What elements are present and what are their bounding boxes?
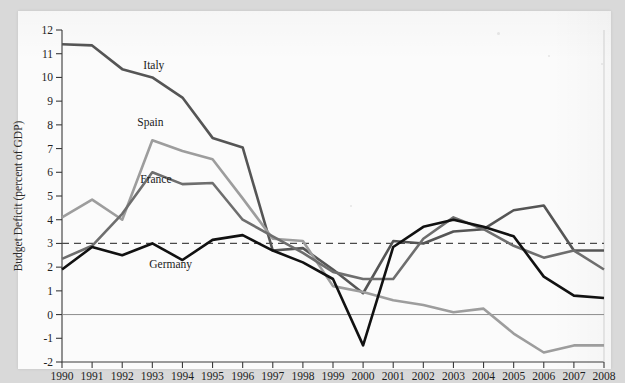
- x-tick-label: 1998: [291, 370, 314, 382]
- y-tick-label: 6: [47, 166, 53, 178]
- x-tick-label: 1990: [51, 370, 74, 382]
- y-tick-label: 4: [47, 214, 53, 226]
- series-label-spain: Spain: [137, 116, 163, 129]
- y-tick-label: 2: [47, 261, 53, 273]
- x-tick-label: 2003: [442, 370, 465, 382]
- y-tick-label: 10: [42, 71, 54, 83]
- scan-speck: [350, 205, 352, 207]
- x-tick-label: 2000: [352, 370, 375, 382]
- y-tick-label: 0: [47, 309, 53, 321]
- scan-speck: [601, 63, 603, 65]
- scanned-page: 1211109876543210-1-2Budget Deficit (perc…: [0, 0, 625, 383]
- x-tick-label: 1996: [231, 370, 254, 382]
- x-tick-label: 2002: [412, 370, 435, 382]
- y-tick-label: 9: [47, 95, 53, 107]
- series-line-germany: [62, 220, 604, 346]
- x-tick-label: 2004: [472, 370, 495, 382]
- scan-speck: [497, 32, 500, 35]
- chart-axes: [62, 30, 604, 362]
- y-axis-title: Budget Deficit (percent of GDP): [12, 120, 25, 271]
- chart-svg: 1211109876543210-1-2Budget Deficit (perc…: [0, 0, 625, 383]
- x-tick-label: 1994: [171, 370, 194, 382]
- x-tick-label: 2006: [532, 370, 555, 382]
- x-tick-label: 1993: [141, 370, 164, 382]
- x-tick-label: 2007: [562, 370, 585, 382]
- y-tick-label: 11: [42, 48, 53, 60]
- y-tick-label: 5: [47, 190, 53, 202]
- series-label-germany: Germany: [149, 258, 192, 271]
- x-tick-label: 2008: [593, 370, 616, 382]
- y-tick-label: 3: [47, 237, 53, 249]
- y-tick-label: -2: [43, 356, 53, 368]
- x-tick-label: 2005: [502, 370, 525, 382]
- y-tick-label: -1: [43, 332, 53, 344]
- y-tick-label: 12: [42, 24, 54, 36]
- series-label-italy: Italy: [143, 59, 164, 72]
- y-tick-label: 1: [47, 285, 53, 297]
- x-tick-label: 1997: [261, 370, 284, 382]
- y-tick-label: 7: [47, 143, 53, 155]
- x-tick-label: 1991: [81, 370, 104, 382]
- series-label-france: France: [140, 173, 171, 185]
- scan-speck: [548, 55, 550, 57]
- x-tick-label: 1992: [111, 370, 134, 382]
- x-tick-label: 1995: [201, 370, 224, 382]
- y-tick-label: 8: [47, 119, 53, 131]
- series-line-italy: [62, 44, 604, 293]
- budget-deficit-line-chart: 1211109876543210-1-2Budget Deficit (perc…: [0, 0, 625, 383]
- series-line-france: [62, 172, 604, 279]
- x-tick-label: 1999: [322, 370, 345, 382]
- x-tick-label: 2001: [382, 370, 405, 382]
